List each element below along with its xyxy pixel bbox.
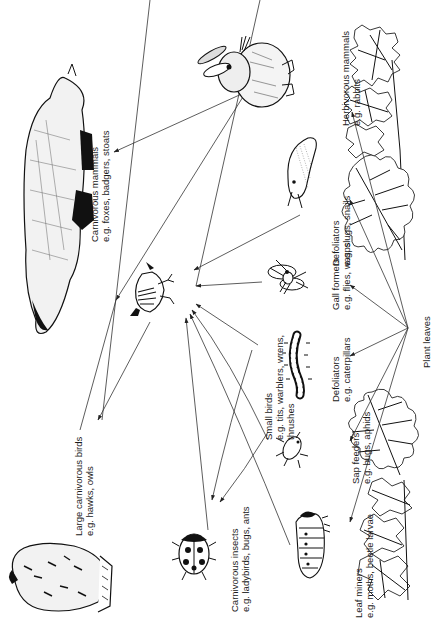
svg-text:Carnivorous mammals: Carnivorous mammals	[89, 147, 100, 242]
svg-text:Herbivorous mammals: Herbivorous mammals	[340, 31, 351, 126]
svg-text:e.g. bugs, aphids: e.g. bugs, aphids	[361, 411, 372, 484]
label-leaf-miners: Leaf miners e.g. moths, beetle larvae	[353, 514, 375, 618]
arrow-sap-to-carn-insects	[220, 432, 268, 502]
svg-text:thrushes: thrushes	[285, 403, 296, 440]
arrow-gall-to-birds	[196, 282, 262, 286]
owl-icon	[9, 543, 112, 612]
label-carnivorous-insects: Carnivorous insects e.g. ladybirds, bugs…	[229, 506, 251, 612]
label-defoliators-caterpillars: Defoliators e.g. caterpillars	[330, 337, 352, 402]
label-large-carnivorous-birds: Large carnivorous birds e.g. hawks, owls	[73, 436, 95, 536]
arrow-caterpillar-to-carn-insects	[212, 350, 252, 500]
svg-text:Defoliators: Defoliators	[330, 356, 341, 402]
rabbit-icon	[196, 36, 294, 107]
svg-text:Small birds: Small birds	[263, 393, 274, 440]
slug-icon	[288, 138, 317, 208]
svg-text:e.g. tits, warblers, wrens,: e.g. tits, warblers, wrens,	[274, 335, 285, 440]
svg-text:e.g. caterpillars: e.g. caterpillars	[341, 337, 352, 402]
ladybird-icon	[172, 534, 216, 580]
label-plant-leaves-title: Plant leaves	[421, 316, 432, 368]
label-carnivorous-mammals: Carnivorous mammals e.g. foxes, badgers,…	[89, 130, 111, 242]
svg-text:e.g. moths, beetle larvae: e.g. moths, beetle larvae	[364, 514, 375, 618]
badger-icon	[24, 64, 94, 334]
svg-text:Leaf miners: Leaf miners	[353, 568, 364, 618]
leaf-miner-larva-icon	[296, 511, 330, 578]
arrow-rabbit-to-large-birds	[116, 92, 246, 300]
caterpillar-icon	[282, 335, 312, 395]
arrow-sapfeeders-to-birds	[192, 310, 268, 440]
svg-text:e.g. ladybirds, bugs, ants: e.g. ladybirds, bugs, ants	[240, 506, 251, 612]
svg-text:Sap feeders: Sap feeders	[350, 433, 361, 484]
label-plant-leaves: Plant leaves	[421, 316, 432, 368]
gall-wasp-icon	[268, 260, 308, 294]
wren-icon	[130, 262, 174, 316]
svg-text:e.g. foxes, badgers, stoats: e.g. foxes, badgers, stoats	[100, 130, 111, 242]
arrow-rabbit-to-large-birds-tail	[80, 300, 116, 430]
arrow-plant-to-gall-formers	[350, 285, 408, 328]
arrow-plant-to-caterpillars	[350, 328, 408, 356]
svg-text:Carnivorous insects: Carnivorous insects	[229, 528, 240, 612]
arrow-ladybird-to-birds	[186, 318, 208, 530]
food-web-diagram: Plant leaves Herbivorous mammals e.g. ra…	[0, 0, 446, 628]
svg-text:e.g. flies, wasps: e.g. flies, wasps	[341, 242, 352, 310]
svg-text:e.g. rabbits: e.g. rabbits	[351, 79, 362, 126]
svg-text:Gall formers: Gall formers	[330, 258, 341, 310]
arrow-caterpillar-to-birds	[196, 304, 258, 345]
svg-text:Large carnivorous birds: Large carnivorous birds	[73, 436, 84, 536]
svg-text:e.g. hawks, owls: e.g. hawks, owls	[84, 466, 95, 536]
